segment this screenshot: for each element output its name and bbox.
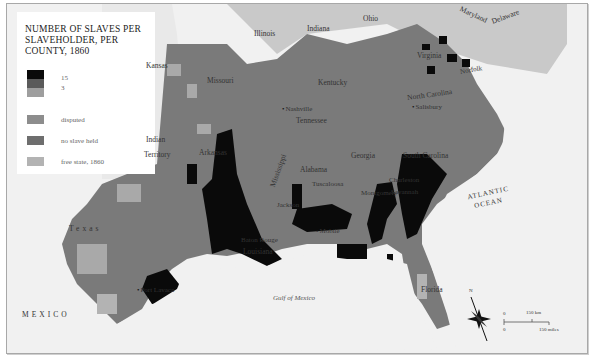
label-virginia: Virginia (417, 51, 441, 60)
label-ohio: Ohio (363, 14, 378, 23)
city-baton-rouge: Baton Rouge (241, 236, 278, 244)
label-gulf-of-mexico: Gulf of Mexico (273, 294, 315, 302)
label-kansas: Kansas (146, 61, 168, 70)
label-indiana: Indiana (307, 24, 330, 33)
label-illinois: Illinois (254, 29, 275, 38)
legend-label-disputed: disputed (61, 116, 85, 124)
legend-swatch-free-state (27, 157, 44, 166)
legend-swatch-high (27, 70, 44, 79)
city-montgomery: Montgomery (361, 189, 398, 197)
map-legend: NUMBER OF SLAVES PER SLAVEHOLDER, PER CO… (17, 12, 155, 174)
map-frame: NUMBER OF SLAVES PER SLAVEHOLDER, PER CO… (6, 3, 588, 354)
label-louisiana: Louisiana (243, 247, 273, 256)
legend-swatch-mid (27, 79, 44, 88)
label-indian-1: Indian (146, 135, 165, 144)
scale-zero-mi: 0 (503, 327, 506, 332)
city-port-lavaca: Port Lavaca (137, 286, 174, 294)
legend-label-no-slaves: no slave held (61, 137, 98, 145)
label-georgia: Georgia (351, 151, 375, 160)
label-florida: Florida (421, 285, 443, 294)
legend-label-free-state: free state, 1860 (61, 158, 104, 166)
legend-label-3: 3 (61, 84, 65, 92)
city-nashville: Nashville (282, 105, 312, 113)
scale-zero-km: 0 (503, 311, 506, 316)
scale-mi: 150 miles (539, 327, 559, 332)
label-missouri: Missouri (207, 76, 234, 85)
compass-north-label: N (469, 288, 473, 293)
label-indian-2: Territory (144, 150, 171, 159)
label-tennessee: Tennessee (296, 116, 327, 125)
label-kentucky: Kentucky (318, 78, 347, 87)
city-jackson: Jackson (277, 201, 299, 209)
label-mexico: MEXICO (22, 310, 70, 319)
legend-swatch-disputed (27, 115, 44, 124)
label-arkansas: Arkansas (199, 148, 227, 157)
label-alabama: Alabama (300, 165, 327, 174)
legend-title: NUMBER OF SLAVES PER SLAVEHOLDER, PER CO… (25, 24, 153, 57)
legend-label-15: 15 (61, 74, 68, 82)
scale-km: 150 km (526, 310, 541, 315)
city-tuscaloosa: Tuscaloosa (312, 180, 343, 188)
legend-swatch-no-slaves (27, 136, 44, 145)
city-charleston: Charleston (389, 176, 419, 184)
label-south-carolina: South Carolina (403, 151, 448, 160)
city-salisbury: Salisbury (412, 103, 442, 111)
label-texas: Texas (69, 224, 101, 233)
legend-swatch-low (27, 88, 44, 97)
city-mobile: Mobile (316, 227, 340, 235)
